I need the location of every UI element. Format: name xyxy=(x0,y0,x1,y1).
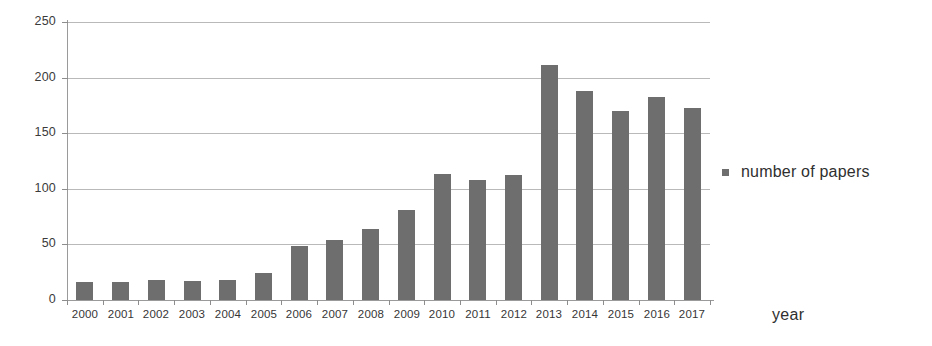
x-tick-label-2008: 2008 xyxy=(353,308,389,320)
x-tick-label-2015: 2015 xyxy=(603,308,639,320)
bar-2009 xyxy=(398,210,415,300)
x-tick-mark-2006 xyxy=(281,300,282,305)
x-axis-title: year xyxy=(772,306,804,324)
x-tick-label-2006: 2006 xyxy=(281,308,317,320)
gridline-y-200 xyxy=(67,78,710,79)
x-tick-label-2016: 2016 xyxy=(639,308,675,320)
bar-2008 xyxy=(362,229,379,300)
x-tick-mark-2004 xyxy=(210,300,211,305)
bar-2005 xyxy=(255,273,272,300)
x-tick-label-2004: 2004 xyxy=(210,308,246,320)
legend-swatch-icon xyxy=(722,169,729,176)
x-tick-label-2017: 2017 xyxy=(674,308,710,320)
x-tick-label-2011: 2011 xyxy=(460,308,496,320)
x-tick-label-2005: 2005 xyxy=(246,308,282,320)
x-tick-mark-2011 xyxy=(460,300,461,305)
bar-2004 xyxy=(219,280,236,300)
x-tick-label-2012: 2012 xyxy=(496,308,532,320)
bar-2015 xyxy=(612,111,629,300)
x-tick-label-2009: 2009 xyxy=(389,308,425,320)
bar-2012 xyxy=(505,175,522,300)
x-tick-mark-2005 xyxy=(246,300,247,305)
x-tick-mark-2008 xyxy=(353,300,354,305)
legend-label: number of papers xyxy=(741,163,870,181)
bar-2011 xyxy=(469,180,486,300)
y-tick-label-50: 50 xyxy=(8,236,56,250)
bar-2013 xyxy=(541,65,558,300)
x-tick-mark-2007 xyxy=(317,300,318,305)
x-tick-mark-2013 xyxy=(531,300,532,305)
legend: number of papers xyxy=(722,163,870,181)
x-tick-label-2001: 2001 xyxy=(103,308,139,320)
x-tick-mark-2010 xyxy=(424,300,425,305)
y-tick-label-150: 150 xyxy=(8,125,56,139)
y-tick-label-250: 250 xyxy=(8,14,56,28)
x-tick-mark-2015 xyxy=(603,300,604,305)
x-tick-mark-2002 xyxy=(138,300,139,305)
y-tick-mark-150 xyxy=(62,133,68,134)
bar-2003 xyxy=(184,281,201,300)
x-axis-line xyxy=(62,300,714,301)
y-tick-mark-100 xyxy=(62,189,68,190)
x-tick-label-2007: 2007 xyxy=(317,308,353,320)
x-tick-mark-2001 xyxy=(103,300,104,305)
y-tick-label-200: 200 xyxy=(8,70,56,84)
y-tick-mark-250 xyxy=(62,22,68,23)
x-tick-mark-end xyxy=(710,300,711,305)
y-tick-label-0: 0 xyxy=(8,292,56,306)
bar-2002 xyxy=(148,280,165,300)
bar-2001 xyxy=(112,282,129,300)
x-tick-mark-2012 xyxy=(496,300,497,305)
bar-2010 xyxy=(434,174,451,300)
bar-2006 xyxy=(291,246,308,300)
x-tick-label-2014: 2014 xyxy=(567,308,603,320)
x-tick-mark-2014 xyxy=(567,300,568,305)
bar-2014 xyxy=(576,91,593,300)
x-tick-label-2010: 2010 xyxy=(424,308,460,320)
x-tick-label-2003: 2003 xyxy=(174,308,210,320)
x-tick-mark-2017 xyxy=(674,300,675,305)
y-axis-line xyxy=(67,20,68,302)
x-tick-mark-2003 xyxy=(174,300,175,305)
x-tick-mark-2016 xyxy=(639,300,640,305)
y-tick-mark-200 xyxy=(62,78,68,79)
bar-2000 xyxy=(76,282,93,300)
y-tick-mark-50 xyxy=(62,244,68,245)
x-tick-mark-2000 xyxy=(67,300,68,305)
bar-2007 xyxy=(326,240,343,300)
bar-2017 xyxy=(684,108,701,300)
x-tick-label-2000: 2000 xyxy=(67,308,103,320)
gridline-y-250 xyxy=(67,22,710,23)
y-tick-label-100: 100 xyxy=(8,181,56,195)
bar-chart: 050100150200250 200020012002200320042005… xyxy=(0,0,932,346)
x-tick-mark-2009 xyxy=(389,300,390,305)
x-tick-label-2013: 2013 xyxy=(531,308,567,320)
bar-2016 xyxy=(648,97,665,300)
x-tick-label-2002: 2002 xyxy=(138,308,174,320)
